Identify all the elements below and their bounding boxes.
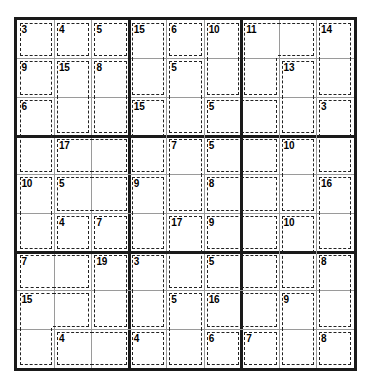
sudoku-cell-r6c1[interactable] [17,213,54,252]
sudoku-cell-r6c9[interactable] [317,213,354,252]
sudoku-cell-r5c1[interactable] [17,175,54,214]
sudoku-cell-r3c1[interactable] [17,97,54,136]
sudoku-cell-r7c2[interactable] [54,252,91,291]
sudoku-cell-r4c8[interactable] [279,136,316,175]
sudoku-cell-r2c6[interactable] [204,59,241,98]
sudoku-cell-r6c5[interactable] [167,213,204,252]
sudoku-cell-r7c9[interactable] [317,252,354,291]
sudoku-cell-r2c1[interactable] [17,59,54,98]
sudoku-cell-r6c3[interactable] [92,213,129,252]
sudoku-cell-r3c3[interactable] [92,97,129,136]
sudoku-cell-r2c3[interactable] [92,59,129,98]
sudoku-cell-r6c6[interactable] [204,213,241,252]
sudoku-cell-r2c9[interactable] [317,59,354,98]
sudoku-cell-r1c2[interactable] [54,20,91,59]
sudoku-cell-r9c6[interactable] [204,329,241,368]
sudoku-cell-r1c7[interactable] [242,20,279,59]
sudoku-cell-r2c5[interactable] [167,59,204,98]
sudoku-cell-r8c5[interactable] [167,291,204,330]
sudoku-cell-r1c8[interactable] [279,20,316,59]
sudoku-cell-r5c6[interactable] [204,175,241,214]
sudoku-cell-r4c7[interactable] [242,136,279,175]
sudoku-cell-r9c7[interactable] [242,329,279,368]
sudoku-cell-r4c9[interactable] [317,136,354,175]
sudoku-cell-r7c4[interactable] [129,252,166,291]
sudoku-grid[interactable]: 3451561011149158513615531775101059816471… [14,17,357,371]
sudoku-cell-r1c4[interactable] [129,20,166,59]
sudoku-cell-r5c2[interactable] [54,175,91,214]
sudoku-cell-r1c9[interactable] [317,20,354,59]
sudoku-cell-r6c7[interactable] [242,213,279,252]
sudoku-cell-r3c8[interactable] [279,97,316,136]
sudoku-cell-r2c2[interactable] [54,59,91,98]
sudoku-cell-r3c4[interactable] [129,97,166,136]
sudoku-cell-r9c5[interactable] [167,329,204,368]
sudoku-cell-r8c4[interactable] [129,291,166,330]
sudoku-cell-r2c4[interactable] [129,59,166,98]
sudoku-cell-r3c7[interactable] [242,97,279,136]
killer-sudoku-puzzle: 3451561011149158513615531775101059816471… [0,0,371,389]
sudoku-cell-r9c2[interactable] [54,329,91,368]
sudoku-cell-r3c2[interactable] [54,97,91,136]
sudoku-cell-r5c9[interactable] [317,175,354,214]
sudoku-cell-r3c6[interactable] [204,97,241,136]
sudoku-cell-r4c3[interactable] [92,136,129,175]
sudoku-cell-r8c2[interactable] [54,291,91,330]
sudoku-cell-r9c9[interactable] [317,329,354,368]
sudoku-cell-r2c8[interactable] [279,59,316,98]
sudoku-cell-r5c5[interactable] [167,175,204,214]
sudoku-cell-r5c7[interactable] [242,175,279,214]
sudoku-cell-r9c8[interactable] [279,329,316,368]
sudoku-cell-r8c7[interactable] [242,291,279,330]
sudoku-cell-r3c9[interactable] [317,97,354,136]
sudoku-cell-r1c1[interactable] [17,20,54,59]
sudoku-cell-r5c3[interactable] [92,175,129,214]
sudoku-cell-r8c9[interactable] [317,291,354,330]
sudoku-cell-r6c8[interactable] [279,213,316,252]
sudoku-cell-r9c4[interactable] [129,329,166,368]
sudoku-cell-r8c1[interactable] [17,291,54,330]
sudoku-cell-r7c7[interactable] [242,252,279,291]
sudoku-cell-r6c4[interactable] [129,213,166,252]
sudoku-cell-r5c4[interactable] [129,175,166,214]
sudoku-cell-r5c8[interactable] [279,175,316,214]
sudoku-cell-r4c1[interactable] [17,136,54,175]
cell-layer[interactable] [17,20,354,368]
sudoku-cell-r1c3[interactable] [92,20,129,59]
sudoku-cell-r7c5[interactable] [167,252,204,291]
sudoku-cell-r7c1[interactable] [17,252,54,291]
sudoku-cell-r4c4[interactable] [129,136,166,175]
sudoku-cell-r1c6[interactable] [204,20,241,59]
sudoku-cell-r7c6[interactable] [204,252,241,291]
sudoku-cell-r8c6[interactable] [204,291,241,330]
sudoku-cell-r7c8[interactable] [279,252,316,291]
sudoku-cell-r7c3[interactable] [92,252,129,291]
sudoku-cell-r8c3[interactable] [92,291,129,330]
sudoku-cell-r3c5[interactable] [167,97,204,136]
sudoku-cell-r8c8[interactable] [279,291,316,330]
sudoku-cell-r4c2[interactable] [54,136,91,175]
sudoku-cell-r6c2[interactable] [54,213,91,252]
sudoku-cell-r4c6[interactable] [204,136,241,175]
sudoku-cell-r9c1[interactable] [17,329,54,368]
sudoku-cell-r4c5[interactable] [167,136,204,175]
sudoku-cell-r1c5[interactable] [167,20,204,59]
sudoku-cell-r2c7[interactable] [242,59,279,98]
sudoku-cell-r9c3[interactable] [92,329,129,368]
